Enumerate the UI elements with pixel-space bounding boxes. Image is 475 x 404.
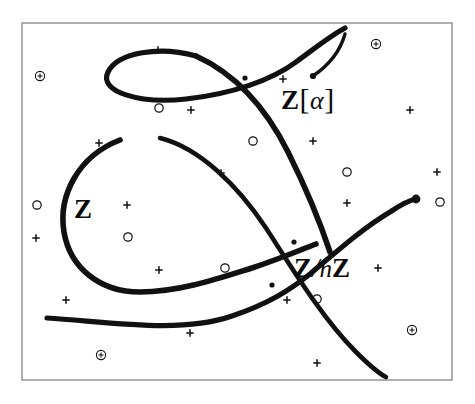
curve-label-z-alpha-z: Z: [281, 85, 300, 115]
curve-label-z-mod-nz-n: n: [320, 255, 333, 282]
curve-label-z-mod-nz-z1: Z: [294, 253, 312, 283]
leader-arrow-dot-icon: [310, 73, 316, 79]
curve-label-z-alpha-open-bracket: [: [300, 82, 311, 115]
curve-label-z-alpha: Z[α]: [281, 84, 335, 114]
figure-canvas: [0, 0, 475, 404]
node-terminal-right: [412, 195, 421, 204]
curve-label-z: Z: [74, 196, 92, 223]
node-crossing-lower: [269, 282, 274, 287]
curve-label-z-mod-nz-slash: /: [312, 253, 320, 283]
node-crossing-upper-loop: [242, 75, 247, 80]
curve-label-z-mod-nz-z2: Z: [332, 253, 350, 283]
curve-label-z-mod-nz: Z/nZ: [294, 255, 350, 282]
figure-root: Z Z[α] Z/nZ: [0, 0, 475, 404]
node-crossing-upper: [291, 239, 296, 244]
curve-label-z-text: Z: [74, 194, 92, 224]
curve-label-z-alpha-alpha: α: [310, 86, 324, 115]
curve-label-z-alpha-close-bracket: ]: [324, 82, 335, 115]
